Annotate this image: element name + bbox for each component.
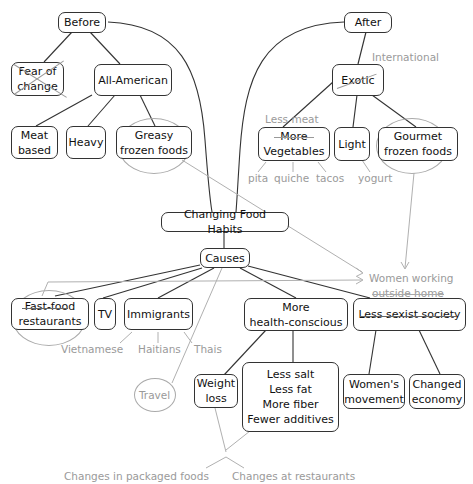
node-causes[interactable]: Causes: [200, 248, 250, 268]
note-quiche: quiche: [274, 172, 309, 184]
node-tv[interactable]: TV: [94, 298, 116, 330]
note-women-working: Women working: [369, 272, 454, 284]
node-meat-based[interactable]: Meat based: [11, 126, 58, 159]
note-haitians: Haitians: [138, 343, 181, 355]
node-heavy[interactable]: Heavy: [66, 126, 106, 159]
node-greasy-frozen-foods[interactable]: Greasy frozen foods: [116, 126, 192, 159]
note-changes-packaged-foods: Changes in packaged foods: [64, 470, 209, 482]
node-health-list[interactable]: Less salt Less fat More fiber Fewer addi…: [242, 362, 339, 432]
note-international: International: [372, 51, 439, 63]
node-gourmet-frozen-foods[interactable]: Gourmet frozen foods: [378, 127, 458, 161]
note-tacos: tacos: [316, 172, 344, 184]
cross-out-line: [372, 294, 444, 295]
cross-out-line: [22, 308, 68, 309]
node-womens-movement[interactable]: Women's movement: [343, 374, 405, 409]
note-thais: Thais: [194, 343, 222, 355]
note-changes-at-restaurants: Changes at restaurants: [232, 470, 355, 482]
node-fast-food-restaurants[interactable]: Fast-food restaurants: [11, 298, 89, 330]
note-less-meat: Less meat: [265, 113, 319, 125]
note-travel: Travel: [139, 389, 170, 401]
node-after[interactable]: After: [344, 12, 392, 33]
cross-out-line: [360, 316, 456, 317]
note-yogurt: yogurt: [358, 172, 392, 184]
node-changed-economy[interactable]: Changed economy: [409, 374, 465, 409]
node-less-sexist-society[interactable]: Less sexist society: [353, 298, 466, 331]
node-before[interactable]: Before: [58, 12, 106, 33]
note-pita: pita: [248, 172, 268, 184]
node-weight-loss[interactable]: Weight loss: [194, 374, 238, 408]
node-all-american[interactable]: All-American: [94, 64, 172, 96]
connector-lines: [0, 0, 473, 484]
node-changing-food-habits[interactable]: Changing Food Habits: [161, 212, 289, 232]
node-immigrants[interactable]: Immigrants: [124, 298, 193, 330]
note-vietnamese: Vietnamese: [61, 343, 123, 355]
node-more-vegetables[interactable]: More Vegetables: [258, 127, 330, 161]
cross-out-line: [274, 137, 314, 138]
node-light[interactable]: Light: [334, 127, 370, 161]
node-health-conscious[interactable]: More health-conscious: [244, 298, 348, 331]
